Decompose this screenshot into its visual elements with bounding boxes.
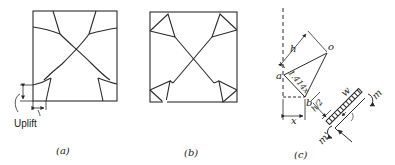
caption-a: (a) [56,145,70,156]
label-m-prime: m' [316,130,332,146]
slab-outline-b [150,12,237,102]
label-a: a [276,70,282,81]
panel-a [15,11,117,116]
caption-b: (b) [184,147,198,158]
panel-b [150,12,237,102]
label-h: h [290,43,296,54]
label-x: x [291,115,297,126]
slab-outline-a [33,11,117,101]
yield-line-figure: Uplift (a) (b) [0,0,395,165]
label-o: o [328,41,334,52]
yield-line-element [335,98,365,128]
uplift-label: Uplift [14,118,37,129]
yield-line-a-diag1 [60,34,110,80]
caption-c: (c) [294,149,308,160]
label-m: m [370,87,384,101]
